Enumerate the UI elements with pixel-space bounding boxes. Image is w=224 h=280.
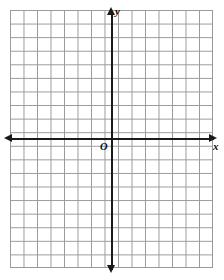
- x-axis-label: x: [213, 141, 219, 152]
- x-axis-line: [8, 138, 214, 140]
- x-axis-left-arrow-icon: [4, 134, 12, 142]
- origin-label: O: [100, 141, 108, 152]
- y-axis-line: [111, 12, 113, 270]
- y-axis-down-arrow-icon: [107, 265, 115, 273]
- y-axis-label: y: [115, 6, 120, 17]
- coordinate-plane: y x O: [0, 0, 224, 280]
